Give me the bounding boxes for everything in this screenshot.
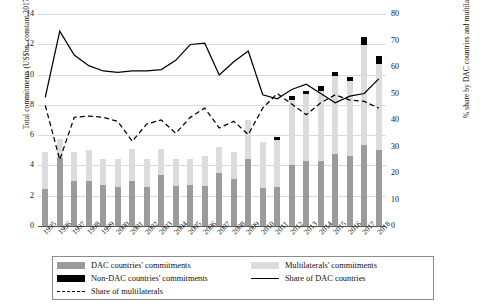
solid-line-icon [251,278,279,279]
y-tick-label-right: 0 [391,221,417,230]
y-tick-label-left: 0 [8,221,34,230]
legend-label-share-dac: Share of DAC countries [285,274,366,283]
y-tick-label-right: 30 [391,142,417,151]
y-tick-label-right: 10 [391,195,417,204]
legend-item-non-dac: Non-DAC countries' commitments [57,274,251,283]
swatch-light-grey-icon [251,262,279,269]
swatch-black-icon [57,275,85,282]
y-tick-label-left: 4 [8,160,34,169]
legend-item-share-multilaterals: Share of multilaterals [57,287,253,296]
legend-label-dac: DAC countries' commitments [91,261,191,270]
chart-legend: DAC countries' commitments Multilaterals… [52,256,434,300]
dashed-line-icon [57,291,85,292]
y-axis-title-left: Total commitments (US$bn, constant 2017 … [22,0,31,133]
y-tick-label-right: 20 [391,168,417,177]
y-tick-label-left: 2 [8,191,34,200]
y-tick-label-right: 50 [391,89,417,98]
y-tick-label-right: 80 [391,9,417,18]
legend-label-non-dac: Non-DAC countries' commitments [91,274,208,283]
chart-container: Total commitments (US$bn, constant 2017 … [0,0,487,306]
legend-item-multilaterals: Multilaterals' commitments [251,261,429,270]
legend-item-share-dac: Share of DAC countries [251,274,429,283]
legend-row-3: Share of multilaterals [57,285,429,298]
line-share-multilaterals [45,94,379,160]
legend-row-2: Non-DAC countries' commitments Share of … [57,272,429,285]
y-tick-label-left: 6 [8,130,34,139]
y-tick-label-left: 8 [8,100,34,109]
line-share-dac [45,31,379,103]
y-tick-label-left: 14 [8,9,34,18]
legend-item-dac: DAC countries' commitments [57,261,251,270]
y-tick-label-left: 10 [8,70,34,79]
legend-row-1: DAC countries' commitments Multilaterals… [57,259,429,272]
swatch-grey-icon [57,262,85,269]
y-tick-label-right: 70 [391,36,417,45]
y-axis-title-right: % share by DAC countries and multilatera… [462,0,471,131]
plot-area [38,14,386,226]
y-tick-label-right: 60 [391,62,417,71]
legend-label-share-multilaterals: Share of multilaterals [91,287,163,296]
legend-label-multilaterals: Multilaterals' commitments [285,261,377,270]
line-series-layer [38,14,386,226]
y-tick-label-right: 40 [391,115,417,124]
y-tick-label-left: 12 [8,39,34,48]
